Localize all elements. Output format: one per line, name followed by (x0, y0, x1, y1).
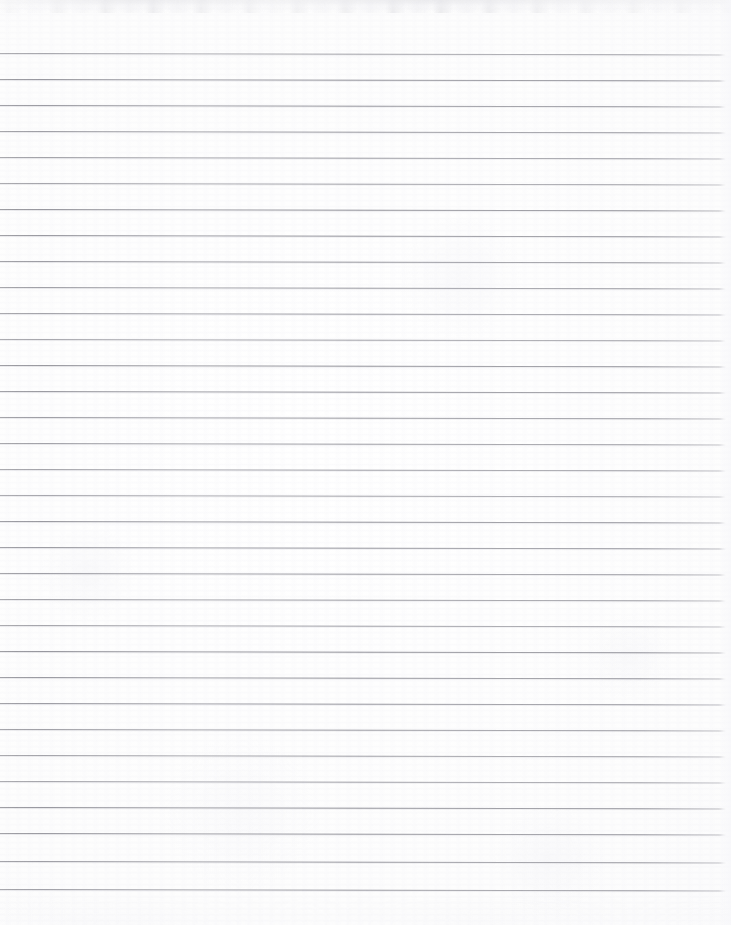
ruling-line (0, 365, 726, 368)
top-edge-scan-smudge (0, 0, 731, 13)
ruling-line (0, 131, 726, 134)
ruling-line (0, 781, 726, 784)
ruling-line (0, 287, 726, 290)
ruling-line (0, 235, 726, 238)
ruling-line (0, 391, 726, 394)
right-edge-falloff (721, 0, 731, 925)
ruling-line (0, 521, 726, 524)
ruling-line (0, 729, 726, 732)
ruling-line (0, 703, 726, 706)
ruling-line (0, 79, 726, 82)
ruling-line (0, 547, 726, 550)
ruling-line (0, 417, 726, 420)
bottom-edge-scan-smudge (0, 895, 731, 925)
ruling-line (0, 651, 726, 654)
ruling-line (0, 313, 726, 316)
ruling-line (0, 807, 726, 810)
ruling-line (0, 861, 726, 864)
ruling-line (0, 469, 726, 472)
ruling-line (0, 53, 726, 56)
ruling-line (0, 105, 726, 108)
ruling-line (0, 183, 726, 186)
ruling-line (0, 209, 726, 212)
ruling-line (0, 677, 726, 680)
ruling-line (0, 261, 726, 264)
ruling-line (0, 599, 726, 602)
scanned-page (0, 0, 731, 925)
ruling-line (0, 889, 726, 892)
ruling-line (0, 495, 726, 498)
ruling-lines-layer (0, 0, 731, 925)
ruling-line (0, 625, 726, 628)
ruling-line (0, 573, 726, 576)
ruling-line (0, 157, 726, 160)
ruling-line (0, 339, 726, 342)
ruling-line (0, 833, 726, 836)
ruling-line (0, 755, 726, 758)
ruling-line (0, 443, 726, 446)
